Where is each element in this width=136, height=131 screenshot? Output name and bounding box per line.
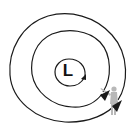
arrow-inner-icon xyxy=(81,74,86,80)
low-pressure-label: L xyxy=(61,62,75,80)
low-pressure-diagram: L xyxy=(0,0,136,131)
